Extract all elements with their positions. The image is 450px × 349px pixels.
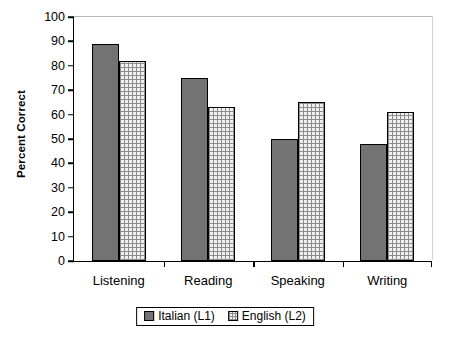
y-axis-tick bbox=[68, 187, 74, 189]
y-axis-tick-label: 60 bbox=[31, 109, 65, 122]
legend-item: Italian (L1) bbox=[144, 310, 215, 322]
y-axis-tick bbox=[68, 236, 74, 238]
y-axis-tick-label: 80 bbox=[31, 60, 65, 73]
y-axis-tick bbox=[68, 65, 74, 67]
bar bbox=[271, 139, 298, 261]
bar-chart-figure: Percent Correct 0102030405060708090100 L… bbox=[0, 0, 450, 349]
bar bbox=[387, 112, 414, 261]
y-axis-title-text: Percent Correct bbox=[15, 90, 27, 178]
y-axis-tick-label: 40 bbox=[31, 157, 65, 170]
bar bbox=[181, 78, 208, 261]
legend-swatch-icon bbox=[144, 311, 154, 321]
y-axis-tick-label: 10 bbox=[31, 231, 65, 244]
y-axis-tick-label: 100 bbox=[31, 11, 65, 24]
x-axis-category-label: Writing bbox=[367, 273, 407, 288]
legend-label: Italian (L1) bbox=[158, 310, 215, 322]
bar bbox=[119, 61, 146, 261]
y-axis-tick bbox=[68, 211, 74, 213]
y-axis-tick-label: 50 bbox=[31, 133, 65, 146]
x-axis-category-label: Listening bbox=[93, 273, 145, 288]
plot-top-border bbox=[74, 16, 432, 17]
legend-item: English (L2) bbox=[228, 310, 306, 322]
x-axis-separator bbox=[253, 261, 255, 267]
bar bbox=[92, 44, 119, 261]
y-axis-tick-label: 20 bbox=[31, 206, 65, 219]
y-axis-tick bbox=[68, 260, 74, 262]
x-axis-category-label: Speaking bbox=[271, 273, 325, 288]
y-axis-tick bbox=[68, 114, 74, 116]
y-axis-tick-label: 30 bbox=[31, 182, 65, 195]
plot-right-border bbox=[432, 16, 433, 260]
legend-swatch-icon bbox=[228, 311, 238, 321]
y-axis-tick-label: 70 bbox=[31, 84, 65, 97]
y-axis-title: Percent Correct bbox=[10, 0, 32, 268]
y-axis-tick bbox=[68, 41, 74, 43]
x-axis-separator bbox=[431, 261, 433, 267]
y-axis-tick-label: 0 bbox=[31, 255, 65, 268]
chart-legend: Italian (L1)English (L2) bbox=[136, 307, 314, 326]
bar bbox=[360, 144, 387, 261]
y-axis-tick bbox=[68, 89, 74, 91]
plot-area: 0102030405060708090100 ListeningReadingS… bbox=[73, 17, 432, 262]
x-axis-separator bbox=[343, 261, 345, 267]
y-axis-tick bbox=[68, 163, 74, 165]
y-axis-tick bbox=[68, 138, 74, 140]
x-axis-category-label: Reading bbox=[184, 273, 232, 288]
y-axis-tick-label: 90 bbox=[31, 35, 65, 48]
y-axis-tick bbox=[68, 16, 74, 18]
x-axis-separator bbox=[164, 261, 166, 267]
bar bbox=[208, 107, 235, 261]
legend-label: English (L2) bbox=[242, 310, 306, 322]
bar bbox=[298, 102, 325, 261]
